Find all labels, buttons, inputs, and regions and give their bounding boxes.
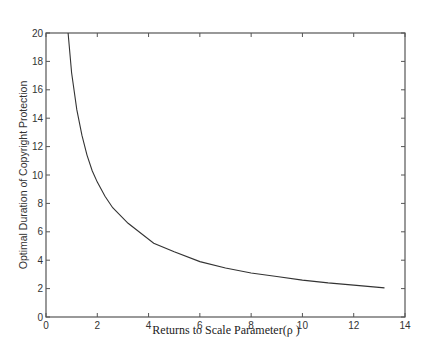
y-axis-label: Optimal Duration of Copyright Protection bbox=[17, 81, 29, 270]
x-tick-label: 14 bbox=[399, 320, 411, 331]
y-tick-label: 4 bbox=[37, 255, 43, 266]
y-tick-label: 14 bbox=[32, 113, 44, 124]
line-chart: 02468101214 02468101214161820 Returns to… bbox=[0, 0, 428, 341]
y-tick-label: 8 bbox=[37, 198, 43, 209]
y-axis-ticks: 02468101214161820 bbox=[32, 28, 405, 323]
series-line bbox=[68, 33, 384, 288]
plot-frame bbox=[46, 33, 405, 317]
x-axis-label: Returns to Scale Parameter(ρ ) bbox=[152, 323, 299, 337]
x-axis-ticks: 02468101214 bbox=[43, 33, 411, 331]
x-tick-label: 12 bbox=[348, 320, 360, 331]
y-tick-label: 10 bbox=[32, 170, 44, 181]
y-tick-label: 18 bbox=[32, 56, 44, 67]
plot-border bbox=[46, 33, 405, 317]
x-tick-label: 4 bbox=[146, 320, 152, 331]
y-tick-label: 20 bbox=[32, 28, 44, 39]
y-tick-label: 6 bbox=[37, 226, 43, 237]
y-tick-label: 16 bbox=[32, 84, 44, 95]
x-tick-label: 0 bbox=[43, 320, 49, 331]
y-tick-label: 2 bbox=[37, 283, 43, 294]
y-tick-label: 0 bbox=[37, 312, 43, 323]
y-tick-label: 12 bbox=[32, 141, 44, 152]
x-tick-label: 2 bbox=[95, 320, 101, 331]
